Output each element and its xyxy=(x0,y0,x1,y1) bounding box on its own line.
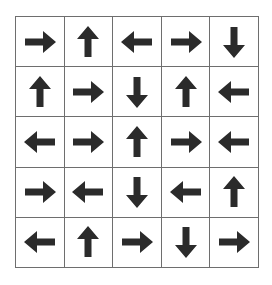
arrow-up-icon xyxy=(70,224,106,260)
grid-cell-r4-c3 xyxy=(113,168,162,218)
arrow-left-icon xyxy=(22,224,58,260)
arrow-right-icon xyxy=(22,174,58,210)
arrow-right-icon xyxy=(168,124,204,160)
grid-cell-r5-c4 xyxy=(162,218,211,268)
grid-cell-r5-c1 xyxy=(16,218,65,268)
arrow-up-icon xyxy=(168,74,204,110)
arrow-right-icon xyxy=(70,124,106,160)
grid-cell-r4-c5 xyxy=(210,168,259,218)
arrow-up-icon xyxy=(70,24,106,60)
arrow-right-icon xyxy=(22,24,58,60)
grid-cell-r3-c2 xyxy=(65,117,114,167)
grid-cell-r1-c3 xyxy=(113,17,162,67)
grid-cell-r4-c1 xyxy=(16,168,65,218)
arrow-left-icon xyxy=(22,124,58,160)
grid-cell-r3-c1 xyxy=(16,117,65,167)
arrow-up-icon xyxy=(22,74,58,110)
arrow-left-icon xyxy=(119,24,155,60)
grid-cell-r1-c2 xyxy=(65,17,114,67)
grid-cell-r2-c4 xyxy=(162,67,211,117)
arrow-left-icon xyxy=(168,174,204,210)
arrow-left-icon xyxy=(216,124,252,160)
grid-cell-r1-c1 xyxy=(16,17,65,67)
grid-cell-r3-c4 xyxy=(162,117,211,167)
arrow-down-icon xyxy=(119,74,155,110)
arrow-down-icon xyxy=(119,174,155,210)
arrow-down-icon xyxy=(168,224,204,260)
arrow-left-icon xyxy=(216,74,252,110)
grid-cell-r2-c1 xyxy=(16,67,65,117)
grid-cell-r3-c5 xyxy=(210,117,259,167)
arrow-right-icon xyxy=(216,224,252,260)
arrow-right-icon xyxy=(119,224,155,260)
arrow-right-icon xyxy=(168,24,204,60)
grid-cell-r3-c3 xyxy=(113,117,162,167)
grid-cell-r2-c2 xyxy=(65,67,114,117)
arrow-up-icon xyxy=(216,174,252,210)
grid-cell-r4-c2 xyxy=(65,168,114,218)
arrow-grid xyxy=(15,16,259,268)
grid-cell-r1-c4 xyxy=(162,17,211,67)
arrow-left-icon xyxy=(70,174,106,210)
grid-cell-r1-c5 xyxy=(210,17,259,67)
grid-cell-r5-c3 xyxy=(113,218,162,268)
grid-cell-r2-c5 xyxy=(210,67,259,117)
arrow-right-icon xyxy=(70,74,106,110)
grid-cell-r5-c5 xyxy=(210,218,259,268)
grid-cell-r2-c3 xyxy=(113,67,162,117)
grid-cell-r5-c2 xyxy=(65,218,114,268)
arrow-down-icon xyxy=(216,24,252,60)
arrow-up-icon xyxy=(119,124,155,160)
grid-cell-r4-c4 xyxy=(162,168,211,218)
